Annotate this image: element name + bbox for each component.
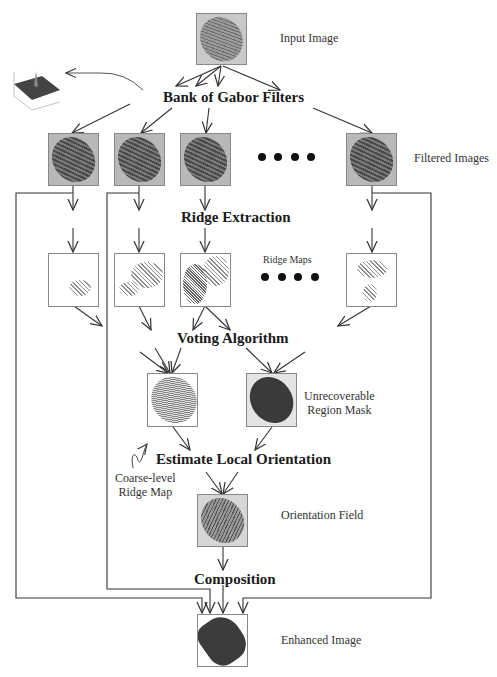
ridge-map-2 [114, 253, 165, 307]
label-ridge-maps: Ridge Maps [263, 254, 312, 266]
label-input-image: Input Image [280, 32, 338, 46]
filtered-image-2 [114, 133, 165, 186]
gabor-surface-plot [12, 66, 62, 112]
filtered-image-3 [180, 133, 231, 186]
ridge-map-1 [48, 253, 99, 307]
filtered-image-1 [48, 133, 99, 186]
coarse-ridge-map-thumb [147, 373, 198, 427]
orientation-field-thumb [197, 494, 248, 547]
input-image-thumb [196, 13, 247, 65]
label-unrecoverable-mask: Unrecoverable Region Mask [304, 390, 375, 418]
step-ridge-extraction: Ridge Extraction [181, 209, 291, 226]
ridge-map-3 [180, 253, 231, 307]
step-gabor: Bank of Gabor Filters [163, 89, 304, 106]
label-enhanced-image: Enhanced Image [281, 634, 361, 648]
step-composition: Composition [194, 571, 276, 588]
unrecoverable-mask-thumb [246, 373, 297, 427]
step-voting: Voting Algorithm [177, 330, 289, 347]
enhanced-image-thumb [197, 614, 248, 667]
step-orientation: Estimate Local Orientation [156, 451, 331, 468]
label-orientation-field: Orientation Field [281, 509, 363, 523]
label-coarse-ridge-map: Coarse-level Ridge Map [115, 472, 176, 500]
filtered-image-n [346, 133, 397, 186]
label-filtered-images: Filtered Images [414, 152, 489, 166]
ridge-map-n [346, 253, 397, 307]
